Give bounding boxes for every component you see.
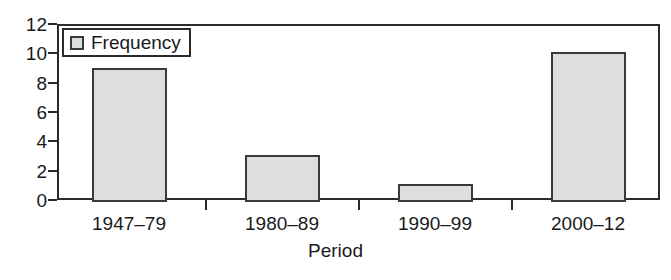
x-tick-label-1947-79: 1947–79 bbox=[92, 213, 166, 235]
y-tick-label-0: 0 bbox=[17, 191, 47, 210]
y-tick-mark-2 bbox=[48, 170, 57, 172]
y-tick-label-4: 4 bbox=[17, 132, 47, 151]
x-tick-mark-2 bbox=[358, 200, 360, 210]
y-axis: 0 2 4 6 8 10 12 bbox=[0, 0, 47, 280]
y-tick-mark-4 bbox=[48, 140, 57, 142]
x-axis-title: Period bbox=[0, 240, 671, 262]
y-tick-label-8: 8 bbox=[17, 73, 47, 92]
y-tick-mark-10 bbox=[48, 52, 57, 54]
y-tick-label-12: 12 bbox=[17, 15, 47, 34]
legend: Frequency bbox=[62, 28, 191, 57]
x-tick-label-2000-12: 2000–12 bbox=[551, 213, 625, 235]
y-tick-mark-8 bbox=[48, 82, 57, 84]
y-tick-mark-12 bbox=[48, 23, 57, 25]
y-tick-label-10: 10 bbox=[17, 44, 47, 63]
y-tick-mark-0 bbox=[48, 199, 57, 201]
x-tick-mark-1 bbox=[205, 200, 207, 210]
legend-swatch-frequency bbox=[70, 36, 84, 50]
y-tick-mark-6 bbox=[48, 111, 57, 113]
y-tick-label-2: 2 bbox=[17, 161, 47, 180]
x-tick-label-1990-99: 1990–99 bbox=[398, 213, 472, 235]
bar-2000-12 bbox=[551, 52, 626, 202]
x-tick-mark-3 bbox=[511, 200, 513, 210]
y-tick-label-6: 6 bbox=[17, 103, 47, 122]
legend-label-frequency: Frequency bbox=[91, 33, 181, 52]
bar-1980-89 bbox=[245, 155, 320, 203]
x-tick-label-1980-89: 1980–89 bbox=[245, 213, 319, 235]
bar-1990-99 bbox=[398, 184, 473, 202]
bar-chart: 0 2 4 6 8 10 12 1947–79 1980–89 1990–99 … bbox=[0, 0, 671, 280]
bar-1947-79 bbox=[92, 68, 167, 202]
